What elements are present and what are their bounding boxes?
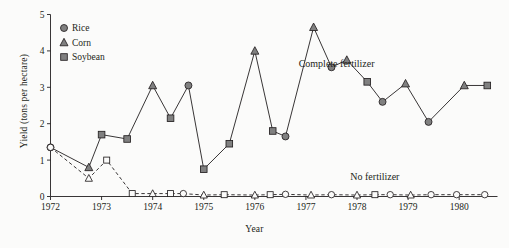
y-tick-label: 0	[40, 192, 45, 202]
x-tick-label: 1973	[92, 202, 111, 212]
marker-rice	[425, 118, 432, 125]
marker-soybean	[484, 82, 491, 89]
marker-soybean	[372, 192, 378, 198]
marker-soybean	[168, 191, 174, 197]
marker-corn	[60, 38, 68, 45]
marker-soybean	[124, 136, 131, 143]
marker-soybean	[269, 128, 276, 135]
x-tick-label: 1980	[450, 202, 469, 212]
marker-corn	[251, 47, 259, 54]
marker-corn	[402, 79, 410, 86]
y-tick-label: 3	[40, 83, 45, 93]
marker-soybean	[221, 192, 227, 198]
figure-container: 0123451972197319741975197619771978197919…	[0, 0, 509, 248]
marker-rice	[428, 191, 434, 197]
marker-corn	[307, 191, 314, 198]
x-tick-label: 1979	[399, 202, 418, 212]
x-axis-title: Year	[0, 224, 509, 234]
x-tick-label: 1976	[245, 202, 264, 212]
annotation-no-fertilizer: No fertilizer	[350, 171, 400, 182]
marker-soybean	[364, 79, 371, 86]
marker-corn	[149, 81, 157, 88]
marker-rice	[185, 82, 192, 89]
x-tick-label: 1974	[143, 202, 162, 212]
legend-label-rice: Rice	[72, 23, 89, 33]
marker-corn	[85, 163, 93, 170]
marker-soybean	[267, 192, 273, 198]
marker-rice	[47, 144, 53, 150]
marker-rice	[482, 191, 488, 197]
marker-rice	[387, 191, 393, 197]
marker-rice	[61, 25, 68, 32]
x-tick-label: 1975	[194, 202, 213, 212]
marker-soybean	[167, 115, 174, 122]
legend: RiceCornSoybean	[60, 23, 105, 62]
marker-soybean	[226, 140, 233, 147]
marker-rice	[379, 98, 386, 105]
marker-soybean	[98, 131, 105, 138]
chart-plot: 0123451972197319741975197619771978197919…	[0, 0, 509, 248]
marker-rice	[180, 190, 186, 196]
marker-soybean	[129, 191, 135, 197]
series-line	[51, 27, 488, 169]
marker-soybean	[104, 157, 110, 163]
marker-rice	[453, 191, 459, 197]
series-no-fertilizer	[47, 144, 488, 198]
legend-label-corn: Corn	[72, 38, 91, 48]
marker-rice	[282, 133, 289, 140]
legend-label-soybean: Soybean	[72, 52, 105, 62]
marker-corn	[460, 81, 468, 88]
y-tick-label: 2	[40, 119, 45, 129]
marker-corn	[85, 175, 92, 182]
marker-corn	[310, 23, 318, 30]
series-line	[51, 147, 485, 195]
marker-rice	[282, 191, 288, 197]
series-complete-fertilizer	[47, 23, 491, 172]
y-tick-label: 5	[40, 10, 45, 20]
marker-corn	[200, 191, 207, 198]
y-axis-title: Yield (tons per hectare)	[19, 31, 29, 171]
x-tick-label: 1978	[348, 202, 367, 212]
x-tick-label: 1972	[41, 202, 60, 212]
x-tick-label: 1977	[296, 202, 315, 212]
y-tick-label: 4	[40, 46, 45, 56]
marker-rice	[328, 191, 334, 197]
marker-soybean	[61, 54, 68, 61]
marker-soybean	[200, 166, 207, 173]
y-tick-label: 1	[40, 156, 45, 166]
annotation-complete-fertilizer: Complete fertilizer	[299, 58, 375, 69]
